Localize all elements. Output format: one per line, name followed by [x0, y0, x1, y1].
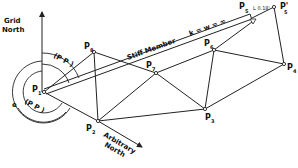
- label-p8-sub: 8: [90, 47, 94, 53]
- stiff-member-line-b: [46, 19, 252, 94]
- grid-north-label-2: North: [2, 26, 24, 34]
- angle-arc-top-inner: [42, 64, 69, 83]
- label-p1-sub: 1: [38, 90, 42, 96]
- label-p5-prime-sub: 5: [284, 9, 288, 15]
- label-p6-sub: 6: [210, 44, 214, 50]
- angle-bottom-label: (P P ): [23, 98, 46, 115]
- network-edges: [44, 7, 284, 121]
- label-p3-sub: 3: [211, 118, 215, 124]
- node-p4: [282, 62, 285, 65]
- label-p5-sub: 5: [245, 8, 249, 14]
- node-p5-prime: [272, 5, 275, 8]
- node-p2: [96, 119, 99, 122]
- label-p4-sub: 4: [293, 68, 297, 74]
- grid-north-label: Grid: [4, 17, 21, 25]
- node-p3: [203, 107, 206, 110]
- angle-top-label: (P P ): [52, 52, 75, 69]
- angle-bottom-prefix: e: [12, 101, 17, 109]
- offset-label: L 0.18': [253, 5, 270, 11]
- label-p7-sub: 7: [152, 66, 156, 72]
- node-p1: [42, 90, 45, 93]
- label-p2-sub: 2: [92, 129, 96, 135]
- traverse-diagram: Grid North Arbitrary North Stiff Member …: [0, 0, 298, 168]
